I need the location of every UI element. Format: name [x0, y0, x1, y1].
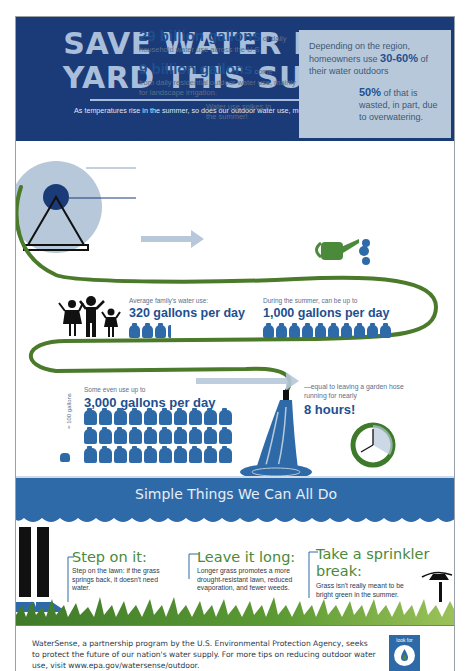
jug-icon [159, 429, 172, 444]
jug-icon [174, 448, 187, 463]
jug-icon [159, 448, 172, 463]
jug-icon [144, 410, 157, 425]
jug-icon [204, 429, 217, 444]
jug-icon [142, 325, 153, 338]
jug-icon [367, 325, 378, 338]
stat-household-use: 29 billion gallons of daily household wa… [139, 27, 299, 55]
jug-icon [84, 448, 97, 463]
jug-icon [129, 410, 142, 425]
jug-icon [129, 325, 140, 338]
jug-icon [99, 448, 112, 463]
jug-icon [99, 410, 112, 425]
tips-banner: Simple Things We Can All Do [16, 476, 455, 516]
footer: WaterSense, a partnership program by the… [16, 625, 455, 671]
tips-wave-divider [16, 514, 455, 526]
jug-icon [263, 325, 274, 338]
jug-icon [84, 410, 97, 425]
watersense-logo-icon [394, 645, 415, 666]
jug-icon [204, 410, 217, 425]
tips-title: Simple Things We Can All Do [16, 486, 455, 502]
jug-icon [204, 448, 217, 463]
legend-jug-icon [60, 453, 70, 462]
footer-text: WaterSense, a partnership program by the… [32, 638, 377, 671]
jug-icon [84, 429, 97, 444]
jug-icon [276, 325, 287, 338]
jug-row-average [129, 325, 245, 338]
wasted-percentage-text: 50% of that is wasted, in part, due to o… [359, 86, 447, 123]
jug-icon [189, 410, 202, 425]
hose-reel-outer [16, 161, 102, 253]
outdoor-percentage-callout: Depending on the region, homeowners use … [299, 30, 451, 138]
jug-icon [174, 429, 187, 444]
grass-illustration [16, 597, 455, 627]
jug-icon [144, 429, 157, 444]
family-icon [59, 296, 120, 337]
jug-icon [328, 325, 339, 338]
jug-icon [114, 448, 127, 463]
jug-legend: = 100 gallons [66, 393, 72, 429]
hose-equivalent: —equal to leaving a garden hose running … [304, 382, 414, 417]
jug-row-summer [263, 325, 391, 338]
jug-icon [129, 429, 142, 444]
jug-icon [219, 410, 232, 425]
stat-outdoor-use: 9 billion gallons come from daily reside… [139, 60, 299, 97]
tip-leave-it-long: Leave it long: Longer grass promotes a m… [197, 549, 307, 593]
jug-icon [289, 325, 300, 338]
jug-icon [174, 410, 187, 425]
jug-icon [155, 325, 166, 338]
jug-icon [189, 429, 202, 444]
jug-grid-extreme [84, 410, 232, 463]
jug-icon [114, 410, 127, 425]
jug-icon [159, 410, 172, 425]
hose-reel-hub [43, 184, 69, 210]
jug-icon [354, 325, 365, 338]
jug-icon [302, 325, 313, 338]
family-average-use: Average family's water use: 320 gallons … [129, 297, 245, 338]
outdoor-percentage-text: Depending on the region, homeowners use … [309, 40, 447, 77]
jug-icon [341, 325, 352, 338]
jug-icon [315, 325, 326, 338]
jug-icon [189, 448, 202, 463]
clock-icon [353, 425, 393, 465]
watering-can-icon [317, 239, 371, 265]
spike-note: Water use spikes in the summer! [206, 102, 276, 121]
jug-icon [380, 325, 391, 338]
jug-icon [99, 429, 112, 444]
jug-icon [129, 448, 142, 463]
tip-sprinkler-break: Take a sprinkler break: Grass isn't real… [316, 546, 446, 599]
watersense-badge: look for [389, 635, 420, 671]
jug-icon-partial [168, 325, 171, 338]
spike-arrow [141, 230, 204, 248]
family-summer-use: During the summer, can be up to 1,000 ga… [263, 297, 391, 338]
jug-icon [114, 429, 127, 444]
jug-icon [219, 429, 232, 444]
clock-background [341, 419, 406, 469]
tip-step-on-it: Step on it: Step on the lawn: if the gra… [72, 549, 177, 593]
jug-icon [219, 448, 232, 463]
jug-icon [144, 448, 157, 463]
extreme-use: Some even use up to 3,000 gallons per da… [84, 386, 216, 410]
infographic: SAVE WATER IN THE YARD THIS SUMMER As te… [15, 16, 455, 671]
